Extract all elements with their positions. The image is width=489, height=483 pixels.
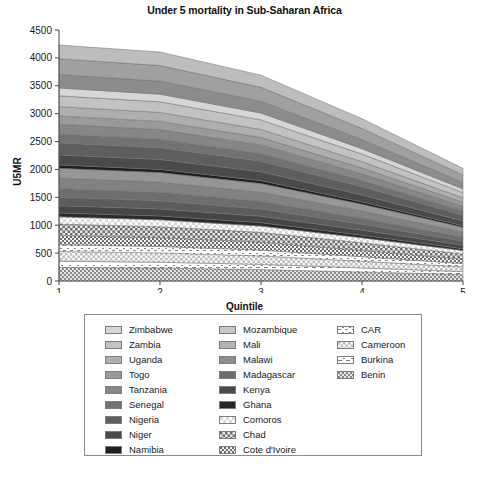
legend-item[interactable]: Cameroon [337,337,433,352]
legend-swatch [219,431,236,439]
legend-item[interactable]: Nigeria [105,412,211,427]
legend-label: Mozambique [243,325,297,335]
x-tick-label: 1 [56,287,62,293]
y-tick-label: 3500 [30,80,53,91]
legend-label: Kenya [243,385,270,395]
legend-swatch [219,416,236,424]
legend-item[interactable]: Zambia [105,337,211,352]
legend-item[interactable]: Comoros [219,412,329,427]
legend-item[interactable]: Madagascar [219,367,329,382]
legend-item[interactable]: Mozambique [219,322,329,337]
y-tick-label: 3000 [30,108,53,119]
legend-label: Burkina [361,355,393,365]
legend-swatch [105,356,122,364]
legend-item[interactable]: Chad [219,427,329,442]
area-bands [59,45,463,281]
legend-swatch [105,341,122,349]
legend-swatch [219,341,236,349]
legend-columns: ZimbabweZambiaUgandaTogoTanzaniaSenegalN… [105,322,433,457]
legend-item[interactable]: Togo [105,367,211,382]
legend-item[interactable]: Niger [105,427,211,442]
stacked-area-chart: 050010001500200025003000350040004500 123… [0,18,489,293]
legend-swatch [105,386,122,394]
y-tick-label: 1500 [30,192,53,203]
legend-swatch [337,371,354,379]
x-tick-label: 2 [157,287,163,293]
legend-swatch [105,431,122,439]
legend-label: Chad [243,430,266,440]
x-tick-label: 3 [258,287,264,293]
legend-label: Benin [361,370,385,380]
legend-label: Tanzania [129,385,167,395]
figure: Under 5 mortality in Sub-Saharan Africa [0,0,489,483]
y-tick-label: 500 [35,248,52,259]
legend-label: Comoros [243,415,282,425]
y-tick-label: 2500 [30,136,53,147]
legend-swatch [219,356,236,364]
legend-swatch [337,341,354,349]
plot-area: 050010001500200025003000350040004500 123… [0,18,489,293]
legend-swatch [337,326,354,334]
x-tick-label: 5 [460,287,466,293]
legend-swatch [219,371,236,379]
legend-item[interactable]: Namibia [105,442,211,457]
legend-item[interactable]: Kenya [219,382,329,397]
legend-label: Malawi [243,355,273,365]
legend-label: Zambia [129,340,161,350]
legend-item[interactable]: CAR [337,322,433,337]
legend-label: CAR [361,325,381,335]
x-tick-label: 4 [359,287,365,293]
legend-swatch [105,416,122,424]
legend-item[interactable]: Benin [337,367,433,382]
legend-label: Mali [243,340,260,350]
legend-item[interactable]: Burkina [337,352,433,367]
legend-label: Togo [129,370,150,380]
legend: ZimbabweZambiaUgandaTogoTanzaniaSenegalN… [84,314,422,456]
x-axis-label: Quintile [0,301,489,312]
chart-title: Under 5 mortality in Sub-Saharan Africa [0,4,489,16]
legend-swatch [337,356,354,364]
legend-item[interactable]: Senegal [105,397,211,412]
legend-label: Madagascar [243,370,295,380]
y-tick-label: 1000 [30,220,53,231]
legend-label: Nigeria [129,415,159,425]
legend-label: Ghana [243,400,272,410]
legend-swatch [105,371,122,379]
legend-item[interactable]: Mali [219,337,329,352]
y-tick-label: 2000 [30,164,53,175]
legend-swatch [219,446,236,454]
legend-item[interactable]: Zimbabwe [105,322,211,337]
legend-swatch [219,386,236,394]
y-axis-label: U5MR [12,142,23,202]
legend-item[interactable]: Ghana [219,397,329,412]
legend-label: Senegal [129,400,164,410]
y-tick-label: 4000 [30,52,53,63]
legend-item[interactable]: Cote d'Ivoire [219,442,329,457]
legend-label: Uganda [129,355,162,365]
legend-label: Namibia [129,445,164,455]
y-tick-labels: 050010001500200025003000350040004500 [30,25,53,287]
y-tick-label: 0 [46,276,52,287]
figure-caption [0,472,489,483]
legend-swatch [105,326,122,334]
legend-column: ZimbabweZambiaUgandaTogoTanzaniaSenegalN… [105,322,211,457]
legend-column: MozambiqueMaliMalawiMadagascarKenyaGhana… [219,322,329,457]
legend-column: CARCameroonBurkinaBenin [337,322,433,457]
legend-item[interactable]: Uganda [105,352,211,367]
legend-swatch [219,326,236,334]
legend-label: Niger [129,430,152,440]
legend-swatch [219,401,236,409]
legend-item[interactable]: Tanzania [105,382,211,397]
legend-swatch [105,401,122,409]
y-tick-label: 4500 [30,25,53,36]
legend-label: Cameroon [361,340,405,350]
legend-label: Zimbabwe [129,325,173,335]
legend-item[interactable]: Malawi [219,352,329,367]
legend-label: Cote d'Ivoire [243,445,296,455]
x-tick-labels: 12345 [56,287,466,293]
legend-swatch [105,446,122,454]
